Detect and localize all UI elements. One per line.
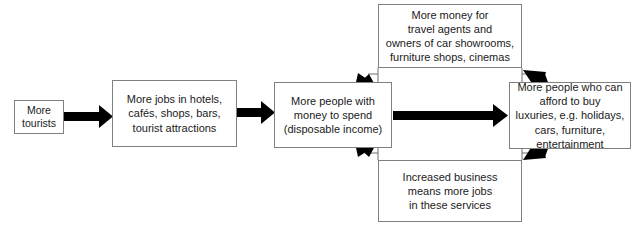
node-more-jobs: More jobs in hotels, cafés, shops, bars,… <box>112 80 237 147</box>
arrow-disposable-to-luxuries <box>393 104 508 127</box>
arrow-jobs-to-disposable <box>237 101 275 124</box>
node-afford-luxuries-label: More people who can afford to buy luxuri… <box>512 80 629 150</box>
node-more-money-for-businesses-label: More money for travel agents and owners … <box>382 8 518 64</box>
node-afford-luxuries: More people who can afford to buy luxuri… <box>509 82 631 149</box>
node-increased-business-label: Increased business means more jobs in th… <box>399 170 502 212</box>
node-increased-business: Increased business means more jobs in th… <box>378 160 522 222</box>
node-more-tourists: More tourists <box>14 100 64 134</box>
node-more-money-for-businesses: More money for travel agents and owners … <box>378 4 522 68</box>
node-more-jobs-label: More jobs in hotels, cafés, shops, bars,… <box>123 92 226 134</box>
node-disposable-income: More people with money to spend (disposa… <box>274 82 392 148</box>
node-more-tourists-label: More tourists <box>18 104 60 131</box>
node-disposable-income-label: More people with money to spend (disposa… <box>280 94 386 136</box>
arrow-tourists-to-jobs <box>64 105 113 128</box>
flowchart-canvas: More tourists More jobs in hotels, cafés… <box>0 0 638 226</box>
